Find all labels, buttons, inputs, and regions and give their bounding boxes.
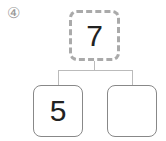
- connector-vertical: [94, 61, 95, 70]
- part-left-value: 5: [50, 94, 67, 128]
- connector-left: [58, 70, 59, 85]
- problem-number: ④: [7, 5, 20, 20]
- part-right-box[interactable]: [107, 85, 157, 137]
- whole-box: 7: [69, 10, 120, 61]
- whole-value: 7: [86, 19, 103, 53]
- part-left-box: 5: [33, 85, 83, 137]
- connector-horizontal: [58, 70, 133, 71]
- connector-right: [132, 70, 133, 85]
